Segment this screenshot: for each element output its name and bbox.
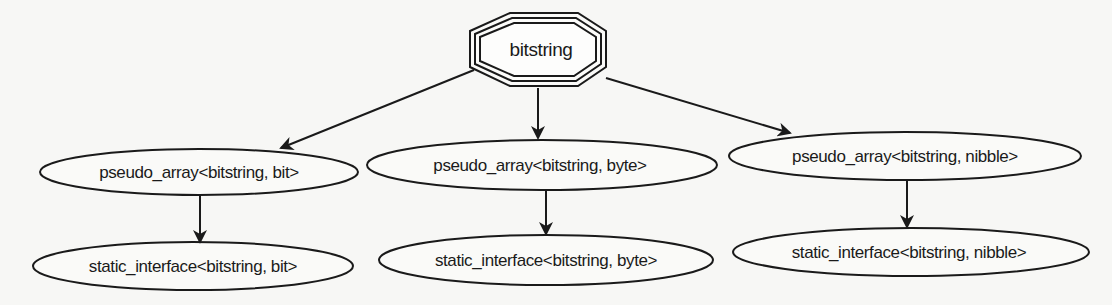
node-label: static_interface<bitstring, bit>	[89, 257, 298, 276]
node-label: pseudo_array<bitstring, byte>	[433, 156, 647, 175]
node-static-interface-bit[interactable]: static_interface<bitstring, bit>	[33, 242, 353, 290]
node-static-interface-nibble[interactable]: static_interface<bitstring, nibble>	[733, 228, 1089, 276]
node-label: pseudo_array<bitstring, bit>	[99, 163, 299, 182]
edge-bitstring-to-pseudo-array-bit	[281, 70, 474, 148]
node-pseudo-array-byte[interactable]: pseudo_array<bitstring, byte>	[367, 140, 717, 190]
node-label: static_interface<bitstring, nibble>	[792, 243, 1027, 262]
class-hierarchy-diagram: bitstring pseudo_array<bitstring, bit> p…	[0, 0, 1112, 305]
node-label: pseudo_array<bitstring, nibble>	[792, 147, 1018, 166]
edge-bitstring-to-pseudo-array-nibble	[606, 78, 790, 133]
node-pseudo-array-bit[interactable]: pseudo_array<bitstring, bit>	[40, 149, 358, 195]
node-pseudo-array-nibble[interactable]: pseudo_array<bitstring, nibble>	[729, 132, 1081, 180]
node-label: static_interface<bitstring, byte>	[435, 251, 658, 270]
node-label: bitstring	[510, 39, 573, 60]
node-static-interface-byte[interactable]: static_interface<bitstring, byte>	[379, 235, 713, 285]
node-bitstring[interactable]: bitstring	[470, 13, 606, 86]
